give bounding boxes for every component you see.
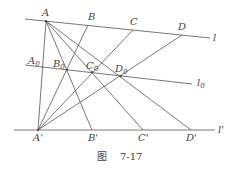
label-Dprime: D' (185, 132, 197, 143)
segment-A-Aprime (38, 21, 46, 130)
label-line-l0: l0 (197, 77, 205, 90)
segment-A-Bprime (46, 21, 92, 130)
point-Aprime (37, 129, 39, 131)
label-Bprime: B' (87, 132, 98, 143)
segment-A-Dprime (46, 21, 191, 130)
projective-figure: A B C D l A0 B0 C0 D0 l0 A' B' C' D' l' … (0, 0, 234, 171)
caption-number: 7-17 (120, 151, 142, 162)
segment-Aprime-B (38, 25, 88, 130)
label-B: B (87, 11, 95, 22)
label-line-l-prime: l' (218, 124, 224, 135)
point-D0 (120, 75, 122, 77)
point-C0 (91, 71, 93, 73)
segment-A-Cprime (46, 21, 143, 130)
label-line-l: l (213, 32, 216, 43)
label-Cprime: C' (138, 132, 148, 143)
label-D: D (177, 21, 186, 32)
caption-prefix: 图 (97, 151, 107, 162)
label-C: C (130, 16, 138, 27)
segment-Aprime-D (38, 35, 182, 130)
point-A (45, 20, 47, 22)
point-B0 (66, 69, 68, 71)
label-Aprime: A' (32, 132, 43, 143)
label-C0: C0 (86, 60, 99, 73)
label-A: A (41, 7, 49, 18)
